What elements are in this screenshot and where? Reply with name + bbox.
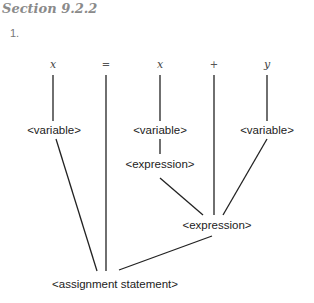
edge-expression-upper-to-expression-lower [160, 178, 203, 215]
edge-variable-right-to-expression-lower [223, 139, 267, 215]
node-variable-left: <variable> [27, 124, 81, 136]
token-plus: + [210, 59, 218, 70]
node-assignment-statement: <assignment statement> [52, 278, 178, 290]
token-y: y [263, 58, 271, 71]
node-variable-middle: <variable> [133, 124, 187, 136]
token-equals: = [102, 59, 110, 70]
edge-variable-left-to-assignment [56, 139, 97, 271]
token-x-right: x [157, 58, 164, 71]
node-variable-right: <variable> [240, 124, 294, 136]
parse-tree-diagram: x = x + y <variable> <variable> <variabl… [0, 0, 314, 303]
node-expression-upper: <expression> [125, 158, 194, 170]
node-expression-lower: <expression> [182, 219, 251, 231]
edge-expression-lower-to-assignment [119, 236, 212, 270]
token-x-left: x [50, 58, 57, 71]
